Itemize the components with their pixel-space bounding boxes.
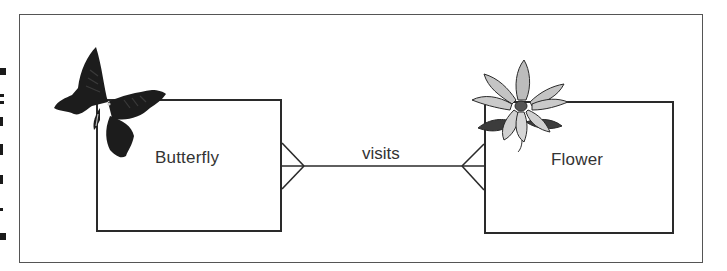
relationship-lines (0, 0, 727, 271)
crows-foot-flower (462, 144, 484, 190)
butterfly-icon (54, 47, 166, 157)
flower-icon (472, 60, 568, 152)
relationship-label: visits (362, 144, 400, 164)
